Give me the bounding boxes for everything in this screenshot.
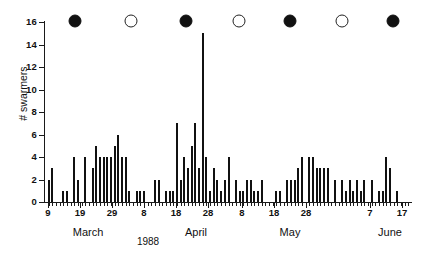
bar bbox=[62, 191, 64, 202]
day-tick bbox=[118, 203, 119, 206]
bar bbox=[154, 180, 156, 203]
bar bbox=[228, 157, 230, 202]
y-tick-label: 0 bbox=[32, 197, 37, 206]
y-tick-label: 8 bbox=[32, 107, 37, 116]
bar bbox=[253, 191, 255, 202]
day-tick bbox=[265, 203, 266, 206]
bar bbox=[385, 157, 387, 202]
day-tick bbox=[390, 203, 391, 206]
bar bbox=[341, 180, 343, 203]
day-tick bbox=[214, 203, 215, 206]
day-tick bbox=[56, 203, 57, 206]
day-tick bbox=[342, 203, 343, 206]
day-tick bbox=[262, 203, 263, 206]
bar bbox=[290, 180, 292, 203]
day-tick bbox=[74, 203, 75, 206]
day-tick bbox=[93, 203, 94, 206]
bar bbox=[66, 191, 68, 202]
day-tick bbox=[375, 203, 376, 206]
bar bbox=[92, 168, 94, 202]
bar bbox=[220, 191, 222, 202]
day-tick bbox=[331, 203, 332, 206]
bar bbox=[77, 180, 79, 203]
day-tick bbox=[126, 203, 127, 206]
day-tick bbox=[107, 203, 108, 206]
bar bbox=[121, 157, 123, 202]
bar bbox=[323, 168, 325, 202]
day-tick bbox=[298, 203, 299, 206]
day-label: 8 bbox=[141, 208, 146, 218]
swarmers-bar-chart: 0246810121416 # swarmers 919298182881828… bbox=[0, 0, 423, 255]
y-tick-label: 4 bbox=[32, 152, 37, 161]
day-tick bbox=[232, 203, 233, 206]
day-tick bbox=[243, 203, 244, 206]
bar bbox=[99, 157, 101, 202]
bar bbox=[176, 123, 178, 202]
day-tick bbox=[129, 203, 130, 206]
bar bbox=[224, 180, 226, 203]
y-tick-mark bbox=[39, 67, 44, 68]
bar bbox=[294, 180, 296, 203]
bar bbox=[191, 146, 193, 202]
bar bbox=[202, 33, 204, 202]
bar bbox=[297, 168, 299, 202]
day-tick bbox=[383, 203, 384, 206]
bar bbox=[216, 180, 218, 203]
bar bbox=[235, 180, 237, 203]
bar bbox=[169, 191, 171, 202]
day-tick bbox=[184, 203, 185, 206]
day-tick bbox=[133, 203, 134, 206]
day-tick bbox=[291, 203, 292, 206]
day-tick bbox=[324, 203, 325, 206]
bar bbox=[84, 157, 86, 202]
y-axis-title: # swarmers bbox=[18, 39, 29, 149]
day-label: 18 bbox=[269, 208, 280, 218]
bar bbox=[356, 180, 358, 203]
bar bbox=[117, 135, 119, 203]
bar bbox=[187, 168, 189, 202]
day-tick bbox=[188, 203, 189, 206]
bar bbox=[103, 157, 105, 202]
bar bbox=[143, 191, 145, 202]
day-tick bbox=[295, 203, 296, 206]
day-tick bbox=[302, 203, 303, 206]
day-tick bbox=[247, 203, 248, 206]
month-label: June bbox=[378, 226, 402, 238]
day-tick bbox=[284, 203, 285, 206]
bar bbox=[106, 157, 108, 202]
day-label: 18 bbox=[171, 208, 182, 218]
bar bbox=[194, 123, 196, 202]
bar bbox=[205, 157, 207, 202]
day-tick bbox=[229, 203, 230, 206]
bar bbox=[165, 191, 167, 202]
bar bbox=[180, 180, 182, 203]
day-tick bbox=[320, 203, 321, 206]
day-tick bbox=[317, 203, 318, 206]
day-label: 9 bbox=[45, 208, 50, 218]
day-tick bbox=[368, 203, 369, 206]
day-tick bbox=[405, 203, 406, 206]
bar bbox=[334, 180, 336, 203]
day-tick bbox=[67, 203, 68, 206]
day-tick bbox=[210, 203, 211, 206]
bar bbox=[378, 191, 380, 202]
bar bbox=[345, 191, 347, 202]
bar bbox=[183, 157, 185, 202]
day-tick bbox=[203, 203, 204, 206]
bar bbox=[312, 157, 314, 202]
bar bbox=[349, 180, 351, 203]
day-label: 28 bbox=[301, 208, 312, 218]
day-tick bbox=[155, 203, 156, 206]
day-tick bbox=[240, 203, 241, 206]
bar bbox=[279, 191, 281, 202]
day-tick bbox=[104, 203, 105, 206]
day-tick bbox=[313, 203, 314, 206]
day-tick bbox=[397, 203, 398, 206]
bar bbox=[209, 191, 211, 202]
bar bbox=[198, 168, 200, 202]
day-label: 19 bbox=[75, 208, 86, 218]
bar bbox=[128, 191, 130, 202]
bar bbox=[242, 191, 244, 202]
plot-area bbox=[45, 22, 412, 202]
bar bbox=[286, 180, 288, 203]
